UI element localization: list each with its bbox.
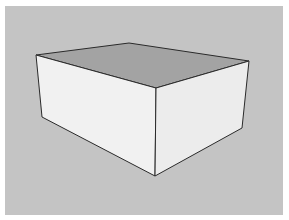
box-3d [0,0,289,220]
